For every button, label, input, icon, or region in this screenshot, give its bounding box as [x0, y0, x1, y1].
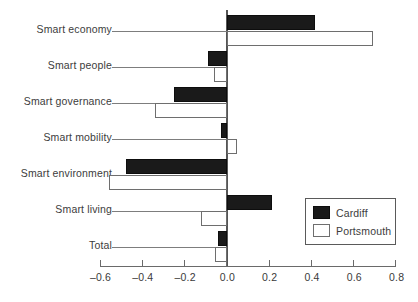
- bar-portsmouth: [214, 67, 227, 82]
- legend: Cardiff Portsmouth: [305, 198, 396, 245]
- category-label: Smart environment: [21, 167, 112, 179]
- category-leader-line: [112, 31, 227, 32]
- category-label: Total: [89, 239, 112, 251]
- category-label: Smart people: [48, 59, 112, 71]
- legend-entry-portsmouth: Portsmouth: [313, 223, 391, 238]
- bar-portsmouth: [227, 139, 238, 154]
- x-tick-label: 0.2: [250, 271, 290, 283]
- category-leader-line: [112, 247, 227, 248]
- bar-portsmouth: [155, 103, 227, 118]
- legend-entry-cardiff: Cardiff: [313, 205, 368, 220]
- bar-cardiff: [174, 87, 227, 102]
- bar-portsmouth: [109, 175, 226, 190]
- x-tick-label: –0.2: [165, 271, 205, 283]
- category-row: Smart economy: [0, 13, 418, 49]
- bar-portsmouth: [201, 211, 226, 226]
- legend-swatch-icon: [313, 224, 330, 237]
- category-leader-line: [112, 139, 227, 140]
- x-tick-label: –0.4: [123, 271, 163, 283]
- bar-cardiff: [126, 159, 226, 174]
- category-label: Smart economy: [37, 23, 112, 35]
- x-tick-label: 0.8: [377, 271, 417, 283]
- category-label: Smart living: [55, 203, 112, 215]
- bar-cardiff: [221, 123, 226, 138]
- x-tick-label: 0.6: [334, 271, 374, 283]
- legend-swatch-icon: [313, 206, 330, 219]
- x-tick-label: 0.4: [292, 271, 332, 283]
- x-axis-line: [100, 266, 396, 267]
- category-row: Smart environment: [0, 157, 418, 193]
- x-tick-label: 0.0: [207, 271, 247, 283]
- category-row: Smart mobility: [0, 121, 418, 157]
- bar-portsmouth: [215, 247, 227, 262]
- bar-cardiff: [218, 231, 226, 246]
- bar-portsmouth: [227, 31, 373, 46]
- legend-label: Cardiff: [336, 207, 368, 219]
- category-leader-line: [112, 67, 227, 68]
- category-label: Smart governance: [24, 95, 112, 107]
- bar-cardiff: [208, 51, 227, 66]
- bar-cardiff: [227, 195, 272, 210]
- plot-area: –0.6 –0.4 –0.2 0.0 0.2 0.4 0.6 0.8 Smart…: [0, 0, 418, 302]
- legend-label: Portsmouth: [336, 225, 391, 237]
- category-row: Smart people: [0, 49, 418, 85]
- x-tick-label: –0.6: [81, 271, 121, 283]
- category-label: Smart mobility: [43, 131, 112, 143]
- category-row: Smart governance: [0, 85, 418, 121]
- bar-cardiff: [227, 15, 316, 30]
- bar-chart: –0.6 –0.4 –0.2 0.0 0.2 0.4 0.6 0.8 Smart…: [0, 0, 418, 302]
